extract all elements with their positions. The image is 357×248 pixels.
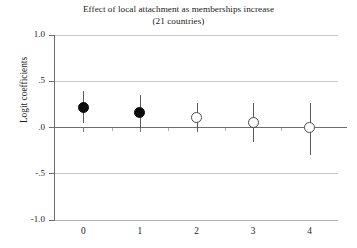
gridline <box>55 220 338 221</box>
y-axis-tick <box>49 127 55 128</box>
y-axis-tick-label: -.5 <box>5 168 45 178</box>
y-axis-tick <box>49 220 55 221</box>
data-point-marker <box>248 117 259 128</box>
data-point-marker <box>78 102 89 113</box>
x-axis-tick-label: 0 <box>68 226 98 236</box>
chart-figure: Effect of local attachment as membership… <box>0 0 357 248</box>
y-axis-line <box>54 35 55 221</box>
y-axis-tick <box>49 173 55 174</box>
y-axis-tick-label: .0 <box>5 122 45 132</box>
data-point-marker <box>134 107 145 118</box>
y-axis-tick <box>49 81 55 82</box>
zero-line <box>55 127 347 128</box>
gridline <box>55 35 338 36</box>
chart-title: Effect of local attachment as membership… <box>0 3 357 15</box>
x-axis-tick <box>140 128 141 132</box>
gridline <box>55 81 338 82</box>
x-axis-minor-tick <box>281 128 282 131</box>
y-axis-tick-label: .5 <box>5 75 45 85</box>
y-axis-title: Logit coefficients <box>19 20 29 160</box>
x-axis-minor-tick <box>112 128 113 131</box>
data-point-marker <box>191 112 202 123</box>
x-axis-minor-tick <box>225 128 226 131</box>
x-axis-tick <box>83 128 84 132</box>
x-axis-tick-label: 2 <box>182 226 212 236</box>
x-axis-tick-label: 4 <box>295 226 325 236</box>
x-axis-tick-label: 3 <box>238 226 268 236</box>
y-axis-tick <box>49 35 55 36</box>
y-axis-tick-label: 1.0 <box>5 29 45 39</box>
y-axis-tick-label: -1.0 <box>5 214 45 224</box>
data-point-marker <box>304 122 315 133</box>
chart-subtitle: (21 countries) <box>0 15 357 27</box>
x-axis-tick-label: 1 <box>125 226 155 236</box>
chart-title-block: Effect of local attachment as membership… <box>0 3 357 27</box>
x-axis-minor-tick <box>168 128 169 131</box>
gridline <box>55 173 338 174</box>
